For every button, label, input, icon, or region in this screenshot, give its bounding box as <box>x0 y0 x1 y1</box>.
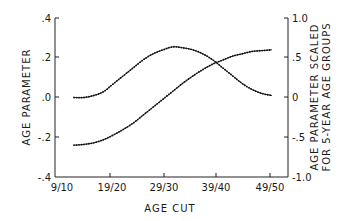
data-marker <box>78 144 80 146</box>
data-marker <box>224 69 226 71</box>
data-marker <box>216 62 218 64</box>
x-axis-title: AGE CUT <box>144 203 195 214</box>
data-marker <box>198 71 200 73</box>
data-marker <box>125 127 127 129</box>
data-marker <box>190 77 192 79</box>
data-marker <box>259 92 261 94</box>
data-marker <box>95 94 97 96</box>
data-marker <box>118 131 120 133</box>
data-marker <box>229 56 231 58</box>
data-marker <box>173 46 175 48</box>
scaled-age-parameter-curve <box>74 50 272 145</box>
data-marker <box>145 57 147 59</box>
data-marker <box>262 93 264 95</box>
data-marker <box>112 83 114 85</box>
data-marker <box>76 97 78 99</box>
data-marker <box>242 53 244 55</box>
data-marker <box>98 93 100 95</box>
right-y-axis-title-line1: AGE PARAMETER SCALED <box>309 24 320 171</box>
data-marker <box>269 94 271 96</box>
data-marker <box>209 65 211 67</box>
data-marker <box>175 46 177 48</box>
data-marker <box>244 52 246 54</box>
data-marker <box>228 72 230 74</box>
data-marker <box>206 55 208 57</box>
data-marker <box>250 88 252 90</box>
data-marker <box>264 93 266 95</box>
data-marker <box>211 64 213 66</box>
data-marker <box>257 91 259 93</box>
data-marker <box>190 48 192 50</box>
data-marker <box>192 75 194 77</box>
axes <box>55 18 288 177</box>
data-marker <box>127 126 129 128</box>
left-y-tick-label: .4 <box>41 13 51 24</box>
left-y-tick-label: .2 <box>41 52 51 63</box>
data-marker <box>105 138 107 140</box>
data-marker <box>133 122 135 124</box>
data-marker <box>178 46 180 48</box>
x-tick-label: 39/40 <box>202 182 231 193</box>
data-marker <box>104 90 106 92</box>
data-marker <box>186 80 188 82</box>
data-marker <box>234 77 236 79</box>
data-marker <box>213 63 215 65</box>
data-marker <box>143 58 145 60</box>
data-marker <box>93 142 95 144</box>
data-marker <box>170 46 172 48</box>
left-y-tick-label: -.2 <box>38 132 51 143</box>
data-marker <box>131 68 133 70</box>
data-marker <box>114 82 116 84</box>
data-marker <box>242 83 244 85</box>
data-marker <box>162 98 164 100</box>
data-marker <box>178 86 180 88</box>
data-marker <box>143 114 145 116</box>
data-marker <box>98 141 100 143</box>
x-tick-label: 29/30 <box>150 182 179 193</box>
data-marker <box>236 78 238 80</box>
data-marker <box>207 66 209 68</box>
data-marker <box>188 48 190 50</box>
data-marker <box>267 94 269 96</box>
data-marker <box>100 92 102 94</box>
data-marker <box>130 69 132 71</box>
data-marker <box>76 144 78 146</box>
data-marker <box>253 89 255 91</box>
data-marker <box>81 144 83 146</box>
data-marker <box>220 60 222 62</box>
data-marker <box>248 87 250 89</box>
data-marker <box>163 48 165 50</box>
data-marker <box>166 95 168 97</box>
data-marker <box>237 54 239 56</box>
data-marker <box>126 72 128 74</box>
data-marker <box>88 143 90 145</box>
right-y-tick-label: -1.0 <box>292 172 312 183</box>
right-y-tick-label: 1.0 <box>292 13 308 24</box>
data-marker <box>141 115 143 117</box>
data-marker <box>213 59 215 61</box>
data-marker <box>152 53 154 55</box>
data-marker <box>147 111 149 113</box>
x-tick-label: 19/20 <box>98 182 127 193</box>
data-marker <box>148 109 150 111</box>
data-marker <box>193 49 195 51</box>
data-marker <box>78 97 80 99</box>
data-marker <box>129 125 131 127</box>
data-marker <box>137 119 139 121</box>
data-marker <box>170 92 172 94</box>
data-marker <box>88 96 90 98</box>
data-marker <box>249 51 251 53</box>
data-marker <box>234 54 236 56</box>
data-marker <box>83 97 85 99</box>
data-marker <box>208 57 210 59</box>
data-marker <box>95 141 97 143</box>
data-marker <box>102 91 104 93</box>
left-y-tick-label: -.4 <box>38 172 51 183</box>
data-marker <box>174 89 176 91</box>
data-marker <box>160 100 162 102</box>
data-marker <box>168 47 170 49</box>
data-marker <box>73 97 75 99</box>
data-marker <box>116 80 118 82</box>
data-marker <box>168 94 170 96</box>
data-marker <box>90 95 92 97</box>
